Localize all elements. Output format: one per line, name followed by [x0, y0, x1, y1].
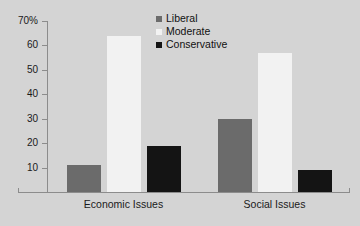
- y-tick-label: 30: [27, 114, 38, 124]
- bar-moderate-social-issues: [258, 53, 292, 192]
- legend-item-conservative: Conservative: [156, 39, 227, 50]
- x-axis-left-cap: [18, 188, 19, 193]
- y-tick-mark: [42, 21, 47, 22]
- legend-item-liberal: Liberal: [156, 13, 227, 24]
- y-tick-mark: [42, 94, 47, 95]
- y-tick-mark: [42, 45, 47, 46]
- legend-swatch-icon-moderate: [156, 29, 162, 35]
- legend-label: Moderate: [166, 26, 210, 37]
- y-tick-label: 40: [27, 89, 38, 99]
- bar-moderate-economic-issues: [107, 36, 141, 192]
- legend-label: Liberal: [166, 13, 198, 24]
- y-tick-label: 20: [27, 138, 38, 148]
- bar-liberal-social-issues: [218, 119, 252, 192]
- x-axis-line: [18, 192, 350, 193]
- y-tick-label: 60: [27, 40, 38, 50]
- legend-label: Conservative: [166, 39, 227, 50]
- legend-item-moderate: Moderate: [156, 26, 227, 37]
- y-tick-mark: [42, 168, 47, 169]
- bar-chart: 70%605040302010 Economic IssuesSocial Is…: [0, 0, 360, 226]
- legend-swatch-icon-liberal: [156, 16, 162, 22]
- y-tick-mark: [42, 70, 47, 71]
- y-tick-label: 50: [27, 65, 38, 75]
- bar-liberal-economic-issues: [67, 165, 101, 192]
- x-axis-label-social-issues: Social Issues: [215, 198, 335, 210]
- bar-conservative-economic-issues: [147, 146, 181, 192]
- bar-conservative-social-issues: [298, 170, 332, 192]
- legend-swatch-icon-conservative: [156, 42, 162, 48]
- x-axis-label-economic-issues: Economic Issues: [64, 198, 184, 210]
- chart-legend: LiberalModerateConservative: [156, 13, 227, 50]
- y-tick-label: 70%: [18, 16, 38, 26]
- y-tick-mark: [42, 143, 47, 144]
- y-tick-label: 10: [27, 163, 38, 173]
- y-tick-mark: [42, 119, 47, 120]
